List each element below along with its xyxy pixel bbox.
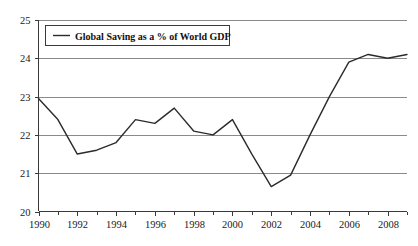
x-tick-label-1992: 1992 (67, 219, 88, 230)
x-tick-label-1998: 1998 (184, 219, 205, 230)
x-tick-label-2002: 2002 (261, 219, 282, 230)
legend-label-global-saving: Global Saving as a % of World GDP (75, 31, 231, 42)
y-tick-label-23: 23 (20, 92, 31, 103)
x-tick-label-1990: 1990 (29, 219, 50, 230)
x-tick-label-2000: 2000 (222, 219, 243, 230)
chart-figure: 202122232425 199019921994199619982000200… (0, 0, 418, 246)
x-tick-label-2008: 2008 (378, 219, 399, 230)
x-tick-label-1994: 1994 (106, 219, 128, 230)
y-tick-label-25: 25 (20, 15, 31, 26)
chart-legend: Global Saving as a % of World GDP (46, 26, 231, 46)
line-chart: 202122232425 199019921994199619982000200… (0, 0, 418, 246)
y-tick-label-21: 21 (20, 168, 31, 179)
y-tick-label-20: 20 (20, 207, 31, 218)
x-tick-label-1996: 1996 (145, 219, 166, 230)
y-tick-label-24: 24 (20, 53, 31, 64)
y-tick-label-22: 22 (20, 130, 31, 141)
x-tick-label-2006: 2006 (339, 219, 360, 230)
x-tick-label-2004: 2004 (300, 219, 322, 230)
